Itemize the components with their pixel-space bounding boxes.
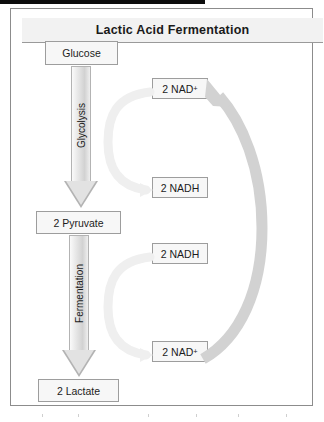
scan-tick	[238, 414, 239, 417]
node-nad-plus-bottom-base: 2 NAD	[162, 346, 193, 358]
node-nadh-lower-base: 2 NADH	[161, 248, 200, 260]
node-nadh-lower: 2 NADH	[152, 243, 208, 264]
scan-tick	[42, 414, 43, 417]
scan-tick	[286, 414, 287, 417]
node-glucose-label: Glucose	[62, 47, 101, 59]
scan-tick	[148, 414, 149, 417]
scan-tick	[196, 414, 197, 417]
node-nad-plus-top-base: 2 NAD	[162, 83, 193, 95]
diagram-title-band: Lactic Acid Fermentation	[22, 18, 323, 43]
node-pyruvate: 2 Pyruvate	[36, 211, 121, 234]
arrow-glycolysis-label: Glycolysis	[76, 91, 87, 161]
scan-edge-bar	[0, 0, 205, 4]
node-lactate-label: 2 Lactate	[57, 385, 100, 397]
node-lactate: 2 Lactate	[38, 379, 119, 402]
node-nadh-upper-base: 2 NADH	[161, 182, 200, 194]
node-nadh-upper: 2 NADH	[152, 177, 208, 198]
node-pyruvate-label: 2 Pyruvate	[53, 217, 103, 229]
arrow-glycolysis-head-fill	[66, 181, 96, 205]
node-nad-plus-bottom: 2 NAD+	[152, 341, 208, 362]
node-nad-plus-top: 2 NAD+	[152, 78, 208, 99]
node-glucose: Glucose	[45, 41, 118, 65]
arrow-fermentation-label: Fermentation	[74, 253, 85, 335]
arrow-fermentation-head-fill	[64, 350, 94, 374]
scan-tick	[78, 414, 79, 417]
page-title: Lactic Acid Fermentation	[96, 23, 250, 37]
